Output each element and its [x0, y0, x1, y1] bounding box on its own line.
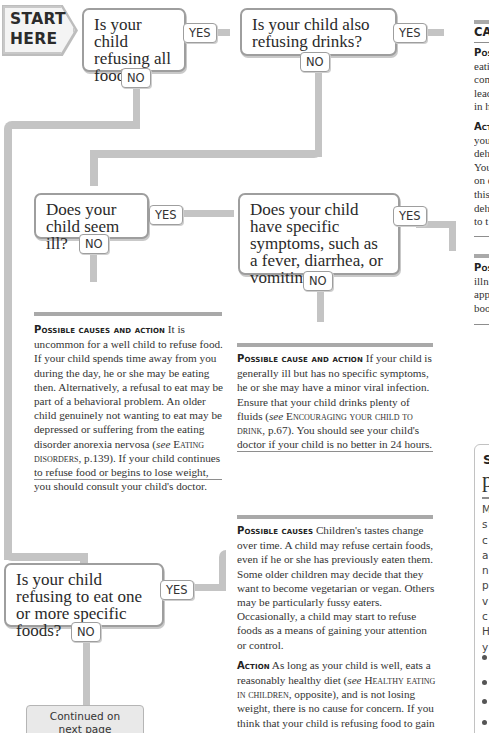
symptoms-no-block-bottom-rule — [237, 451, 433, 452]
sidebar-text: M s c a n p v c H y — [482, 502, 489, 655]
block-lead: Possible causes — [237, 525, 313, 536]
fragment-line: Pos — [474, 46, 489, 60]
connector-into-q3 — [90, 150, 98, 186]
right-block-top-rule — [474, 20, 489, 24]
sidebar-line: a — [482, 548, 489, 563]
fragment-line: illn — [474, 275, 489, 289]
bullet-icon — [482, 680, 487, 685]
start-here-label: START HERE — [10, 9, 66, 49]
sidebar-line: M — [482, 502, 489, 517]
block-text: It is uncommon for a well child to refus… — [34, 323, 223, 450]
fragment-line: boo — [474, 302, 489, 316]
ill-no-block-top-rule — [34, 312, 222, 316]
connector-q5-yes-up — [219, 550, 226, 591]
bullet-icon — [482, 699, 487, 704]
fragment-line: this — [474, 188, 489, 202]
right-block-2-bottom-rule — [474, 324, 489, 325]
connector-q2-to-q3 — [90, 150, 322, 158]
connector-q5-no — [83, 640, 90, 706]
start-label-line2: HERE — [10, 29, 66, 49]
continued-line2: next page — [27, 723, 143, 733]
yes-label-q5: YES — [160, 580, 194, 600]
no-label-q4: NO — [303, 271, 333, 291]
block-see: see — [347, 674, 361, 686]
fragment-line: Pos — [474, 261, 489, 275]
no-label-q1: NO — [121, 68, 151, 88]
yes-label-q3: YES — [149, 205, 183, 225]
specific-yes-block-top-rule — [237, 515, 433, 519]
continued-line1: Continued on — [27, 710, 143, 723]
sidebar-line: p — [482, 578, 489, 593]
no-label-q5: NO — [71, 622, 101, 642]
fragment-line: in h — [474, 100, 489, 114]
right-fragment-block-2: Pos illn app boo — [474, 261, 489, 315]
fragment-line: com — [474, 73, 489, 87]
fragment-line: deh — [474, 147, 489, 161]
connector-q1-to-rail — [4, 121, 140, 129]
question-seem-ill: Does your child seem ill? — [34, 193, 149, 239]
sidebar-subheading: p — [482, 467, 489, 493]
specific-yes-text-block: Possible causes Children's tastes change… — [237, 523, 437, 733]
bullet-icon — [482, 655, 487, 660]
connector-rail-to-q5 — [4, 553, 88, 561]
fragment-line: you — [474, 134, 489, 148]
connector-q4-yes-down — [449, 221, 456, 251]
sidebar-line: y — [482, 640, 489, 655]
fragment-line: app — [474, 288, 489, 302]
question-text: Is your child also refusing drinks? — [252, 15, 370, 51]
fragment-line: Act — [474, 120, 489, 134]
sidebar-heading-rule — [482, 497, 489, 499]
fragment-line: deh — [474, 202, 489, 216]
yes-label-q1: YES — [183, 23, 217, 43]
sidebar-heading: S — [483, 452, 489, 467]
sidebar-line: n — [482, 563, 489, 578]
symptoms-no-text-block: Possible cause and action If your child … — [237, 351, 437, 451]
yes-label-q2: YES — [393, 23, 427, 43]
ill-no-text-block: Possible causes and action It is uncommo… — [34, 322, 224, 493]
fragment-line: lead — [474, 87, 489, 101]
sidebar-line: H — [482, 624, 489, 639]
symptoms-no-block-top-rule — [237, 343, 433, 347]
block-text: , p.67). You should see your child's doc… — [237, 424, 432, 450]
right-fragment-block-1: Pos eati com lead in h Act you deh You o… — [474, 46, 489, 229]
fragment-line: to t — [474, 215, 489, 229]
sidebar-line: c — [482, 533, 489, 548]
ill-no-block-bottom-rule — [34, 479, 222, 480]
fragment-line: on e — [474, 174, 489, 188]
right-block-1-bottom-rule — [474, 236, 489, 237]
question-specific-foods: Is your child refusing to eat one or mor… — [4, 563, 164, 627]
block-see: see — [156, 438, 170, 450]
block-lead: Possible cause and action — [237, 353, 363, 364]
no-label-q3: NO — [79, 234, 109, 254]
yes-label-q4: YES — [393, 206, 427, 226]
right-heading-rule — [474, 42, 489, 43]
block-lead: Action — [237, 660, 270, 671]
block-text: Children's tastes change over time. A ch… — [237, 524, 434, 651]
question-refusing-all-foods: Is your child refusing all foods? — [82, 8, 186, 72]
connector-q3-yes — [178, 210, 234, 217]
sidebar-line: v — [482, 594, 489, 609]
right-heading-fragment: CA — [474, 25, 489, 39]
block-see: see — [269, 410, 283, 422]
fragment-line: eati — [474, 60, 489, 74]
fragment-line: You — [474, 161, 489, 175]
start-label-line1: START — [10, 9, 66, 29]
question-refusing-drinks: Is your child also refusing drinks? — [240, 8, 397, 56]
right-block-2-top-rule — [474, 254, 489, 258]
block-lead: Possible causes and action — [34, 324, 165, 335]
sidebar-line: s — [482, 517, 489, 532]
connector-q4-no — [317, 286, 324, 322]
sidebar-line: c — [482, 609, 489, 624]
bullet-icon — [482, 720, 487, 725]
no-label-q2: NO — [300, 52, 330, 72]
connector-rail-left — [4, 129, 12, 560]
question-specific-symptoms: Does your child have specific symptoms, … — [238, 193, 400, 275]
connector-q2-no — [315, 62, 322, 157]
continued-next-page-box[interactable]: Continued on next page — [26, 705, 144, 733]
